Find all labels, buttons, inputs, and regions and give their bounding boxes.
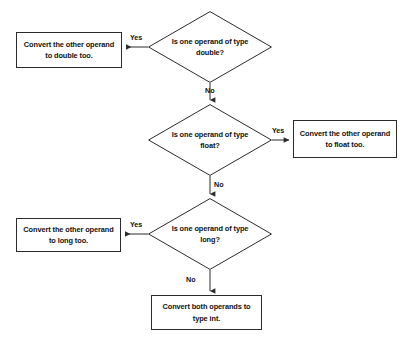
decision-double-line2: double? <box>162 47 258 58</box>
process-convert-to-int[interactable]: Convert both operands to type int. <box>151 295 262 330</box>
process-convert-to-float[interactable]: Convert the other operand to float too. <box>293 120 397 158</box>
decision-long-line2: long? <box>162 234 258 245</box>
decision-long-label: Is one operand of type long? <box>162 223 258 246</box>
edge-label-double-no: No <box>205 86 214 95</box>
process-convert-to-float-text: Convert the other operand to float too. <box>300 128 390 151</box>
process-convert-to-int-text: Convert both operands to type int. <box>163 301 251 324</box>
decision-is-float[interactable]: Is one operand of type float? <box>148 104 272 176</box>
decision-float-line2: float? <box>162 140 258 151</box>
process-convert-to-double[interactable]: Convert the other operand to double too. <box>16 32 122 68</box>
process-convert-to-double-line2: to double too. <box>24 50 114 61</box>
edge-label-long-yes: Yes <box>130 220 142 229</box>
process-convert-to-float-line2: to float too. <box>300 139 390 150</box>
process-convert-to-double-text: Convert the other operand to double too. <box>24 39 114 62</box>
decision-float-label: Is one operand of type float? <box>162 129 258 152</box>
process-convert-to-double-line1: Convert the other operand <box>24 39 114 50</box>
decision-double-line1: Is one operand of type <box>162 36 258 47</box>
edge-label-double-yes: Yes <box>130 33 142 42</box>
process-convert-to-float-line1: Convert the other operand <box>300 128 390 139</box>
decision-double-label: Is one operand of type double? <box>162 36 258 59</box>
edge-label-float-yes: Yes <box>272 126 284 135</box>
process-convert-to-long[interactable]: Convert the other operand to long too. <box>16 218 121 252</box>
decision-long-line1: Is one operand of type <box>162 223 258 234</box>
process-convert-to-long-text: Convert the other operand to long too. <box>23 224 113 247</box>
process-convert-to-long-line2: to long too. <box>23 235 113 246</box>
decision-is-double[interactable]: Is one operand of type double? <box>148 11 272 83</box>
process-convert-to-int-line1: Convert both operands to <box>163 301 251 312</box>
process-convert-to-int-line2: type int. <box>163 313 251 324</box>
decision-float-line1: Is one operand of type <box>162 129 258 140</box>
flowchart-canvas: Is one operand of type double? Convert t… <box>0 0 411 345</box>
decision-is-long[interactable]: Is one operand of type long? <box>148 198 272 270</box>
edge-label-float-no: No <box>214 180 223 189</box>
process-convert-to-long-line1: Convert the other operand <box>23 224 113 235</box>
edge-label-long-no: No <box>186 275 195 284</box>
